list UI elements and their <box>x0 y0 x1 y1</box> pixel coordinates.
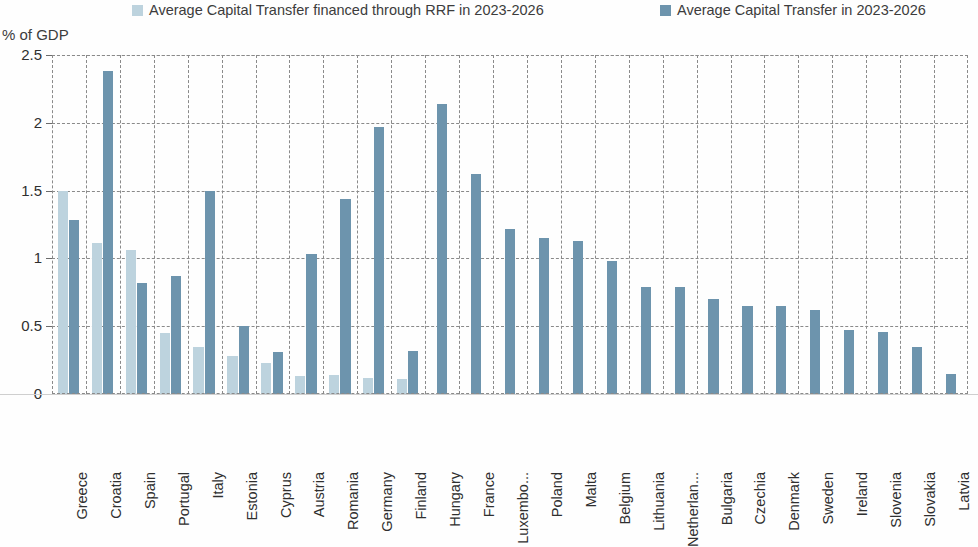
bar-rrf <box>397 379 407 394</box>
bar-total <box>273 352 283 394</box>
bottom-rule <box>0 394 978 395</box>
bar-group <box>493 55 527 394</box>
chart-legend: Average Capital Transfer financed throug… <box>0 0 978 26</box>
bar-total <box>844 330 854 394</box>
bar-group <box>629 55 663 394</box>
bar-total <box>539 238 549 394</box>
y-axis-tick-label: 1.5 <box>0 182 42 199</box>
bar-group <box>188 55 222 394</box>
bar-total <box>742 306 752 394</box>
bar-group <box>866 55 900 394</box>
bar-rrf <box>329 375 339 394</box>
bar-total <box>810 310 820 394</box>
bar-group <box>527 55 561 394</box>
bar-total <box>946 374 956 394</box>
x-axis-tick-label: Poland <box>550 472 565 517</box>
bar-group <box>663 55 697 394</box>
x-axis-tick-label: Latvia <box>957 472 972 511</box>
bar-total <box>437 104 447 394</box>
bar-group <box>697 55 731 394</box>
x-axis-tick-label: Spain <box>143 472 158 509</box>
bar-group <box>900 55 934 394</box>
x-axis-tick-label: Luxembo... <box>516 472 531 544</box>
bar-group <box>52 55 86 394</box>
bar-total <box>408 351 418 394</box>
x-axis-tick-label: Bulgaria <box>720 472 735 525</box>
bar-group <box>120 55 154 394</box>
bar-rrf <box>261 363 271 394</box>
bar-total <box>573 241 583 394</box>
x-axis-tick-label: Netherlan... <box>686 472 701 547</box>
legend-item-total: Average Capital Transfer in 2023-2026 <box>660 2 926 18</box>
x-axis-tick-label: Lithuania <box>652 472 667 531</box>
bar-group <box>832 55 866 394</box>
bar-group <box>934 55 968 394</box>
x-axis-tick-label: Italy <box>211 472 226 499</box>
x-axis-tick-label: Greece <box>75 472 90 520</box>
bar-rrf <box>227 356 237 394</box>
legend-label-rrf: Average Capital Transfer financed throug… <box>149 2 544 18</box>
bar-total <box>205 191 215 394</box>
x-axis-labels: GreeceCroatiaSpainPortugalItalyEstoniaCy… <box>52 396 968 475</box>
x-axis-tick-label: Slovenia <box>889 472 904 528</box>
y-axis-tick-label: 1 <box>0 249 42 266</box>
bar-total <box>171 276 181 394</box>
bar-rrf <box>193 347 203 394</box>
bar-total <box>340 199 350 394</box>
bar-total <box>708 299 718 394</box>
bar-group <box>425 55 459 394</box>
bar-rrf <box>58 191 68 394</box>
bar-rrf <box>363 378 373 394</box>
bar-group <box>764 55 798 394</box>
legend-label-total: Average Capital Transfer in 2023-2026 <box>677 2 926 18</box>
bars-layer <box>52 55 968 394</box>
bar-total <box>137 283 147 394</box>
y-axis: 00.511.522.5 <box>0 0 46 475</box>
plot-area <box>52 55 968 394</box>
bar-group <box>798 55 832 394</box>
x-axis-tick-label: Croatia <box>109 472 124 519</box>
bar-group <box>595 55 629 394</box>
bar-total <box>374 127 384 394</box>
x-axis-tick-label: Germany <box>380 472 395 532</box>
x-axis-tick-label: Portugal <box>177 472 192 526</box>
x-axis-tick-label: Czechia <box>753 472 768 524</box>
x-axis-tick-label: Malta <box>584 472 599 507</box>
bar-rrf <box>126 250 136 394</box>
x-axis-tick-label: Denmark <box>787 472 802 531</box>
bar-total <box>912 347 922 394</box>
bar-total <box>471 174 481 394</box>
x-axis-tick-label: Cyprus <box>279 472 294 518</box>
legend-swatch-rrf <box>132 5 143 16</box>
bar-group <box>289 55 323 394</box>
x-axis-tick-label: Romania <box>346 472 361 530</box>
x-axis-tick-label: Finland <box>414 472 429 520</box>
bar-group <box>731 55 765 394</box>
x-axis-tick-label: Austria <box>312 472 327 517</box>
bar-group <box>86 55 120 394</box>
x-axis-tick-label: France <box>482 472 497 517</box>
bar-group <box>256 55 290 394</box>
bar-total <box>69 220 79 394</box>
x-axis-tick-label: Belgium <box>618 472 633 524</box>
bar-group <box>459 55 493 394</box>
x-axis-tick-label: Sweden <box>821 472 836 524</box>
bar-group <box>357 55 391 394</box>
bar-total <box>607 261 617 394</box>
bar-total <box>103 71 113 394</box>
bar-group <box>154 55 188 394</box>
bar-total <box>306 254 316 394</box>
bar-total <box>878 332 888 394</box>
bar-total <box>776 306 786 394</box>
y-axis-tick-label: 2 <box>0 114 42 131</box>
x-axis-tick-label: Slovakia <box>923 472 938 527</box>
x-axis-tick-label: Hungary <box>448 472 463 527</box>
legend-item-rrf: Average Capital Transfer financed throug… <box>132 2 544 18</box>
bar-rrf <box>160 333 170 394</box>
x-axis-tick-label: Ireland <box>855 472 870 516</box>
bar-total <box>641 287 651 394</box>
bar-rrf <box>295 376 305 394</box>
y-axis-tick-label: 0.5 <box>0 317 42 334</box>
bar-total <box>675 287 685 394</box>
bar-group <box>323 55 357 394</box>
